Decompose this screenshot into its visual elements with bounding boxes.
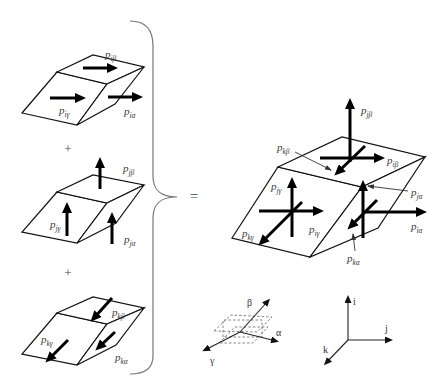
label-subscript: jβ bbox=[366, 110, 373, 119]
j-axis-label: j bbox=[384, 323, 388, 334]
label-subscript: jβ bbox=[128, 168, 135, 177]
label-p-j-beta: pjβ bbox=[122, 162, 135, 177]
label-subscript: iα bbox=[417, 226, 424, 235]
label-p-j-alpha: pjα bbox=[410, 186, 424, 201]
label-subscript: kβ bbox=[118, 312, 125, 321]
label-subscript: iα bbox=[130, 111, 137, 120]
label-p-k-beta: pkβ bbox=[276, 141, 290, 156]
plus-sign: + bbox=[64, 141, 71, 156]
label-subscript: iβ bbox=[111, 54, 117, 63]
alpha-axis-arrow bbox=[240, 332, 276, 341]
combined-block: pjβ pkβ piβ pjα piα pkα pjγ piγ pkγ bbox=[232, 103, 425, 267]
label-subscript: kα bbox=[121, 357, 129, 366]
label-subscript: kβ bbox=[283, 147, 290, 156]
label-subscript: kγ bbox=[47, 339, 54, 348]
global-reference-frame: i j k bbox=[323, 296, 390, 363]
label-subscript: jα bbox=[416, 192, 424, 201]
label-subscript: kα bbox=[353, 258, 361, 267]
label-p-j-beta: pjβ bbox=[360, 104, 373, 119]
i-axis-label: i bbox=[353, 296, 356, 307]
label-p-k-alpha: pkα bbox=[114, 351, 129, 366]
label-subscript: jγ bbox=[276, 186, 283, 195]
plus-sign: + bbox=[64, 265, 71, 280]
label-p-i-alpha: piα bbox=[410, 220, 424, 235]
label-p-k-alpha: pkα bbox=[346, 252, 361, 267]
alpha-axis-label: α bbox=[276, 327, 282, 338]
k-axis-label: k bbox=[323, 344, 328, 355]
component-i-block: piβ piγ piα bbox=[22, 48, 144, 125]
dashed-plane bbox=[219, 327, 268, 343]
label-p-j-alpha: pjα bbox=[123, 233, 137, 248]
label-subscript: iβ bbox=[393, 160, 399, 169]
k-axis-arrow bbox=[326, 340, 348, 363]
material-reference-frame: β α γ bbox=[205, 297, 282, 366]
gamma-axis-label: γ bbox=[209, 355, 215, 366]
equals-sign: = bbox=[190, 188, 198, 204]
beta-axis-label: β bbox=[247, 297, 252, 308]
label-subscript: jγ bbox=[55, 224, 62, 233]
component-j-block: pjβ pjγ pjα bbox=[22, 162, 144, 248]
gamma-axis-arrow bbox=[205, 332, 240, 350]
label-subscript: kγ bbox=[248, 233, 255, 242]
label-subscript: jα bbox=[129, 239, 137, 248]
label-p-i-alpha: piα bbox=[123, 105, 137, 120]
stress-decomposition-diagram: piβ piγ piα + pjβ pjγ pjα + pkβ pkγ pkα … bbox=[0, 0, 447, 390]
component-k-block: pkβ pkγ pkα bbox=[22, 297, 144, 366]
